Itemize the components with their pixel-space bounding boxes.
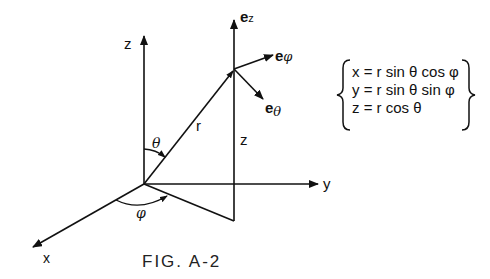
y-axis-label: y	[323, 176, 331, 191]
equations-block: x = r sin θ cos φ y = r sin θ sin φ z = …	[340, 58, 470, 130]
x-axis-label: x	[43, 251, 50, 265]
height-z-label: z	[240, 132, 248, 147]
ephi-label: eφ	[275, 48, 292, 63]
phi-label: φ	[136, 206, 146, 220]
figure-caption: FIG. A-2	[142, 252, 221, 272]
r-label: r	[196, 118, 201, 133]
etheta-label: eθ	[265, 100, 281, 115]
phi-arc	[116, 196, 167, 205]
equation-x: x = r sin θ cos φ	[352, 64, 459, 79]
projection-line	[144, 184, 234, 221]
x-axis	[33, 184, 144, 247]
equation-y: y = r sin θ sin φ	[352, 82, 455, 97]
ez-label: ez	[240, 9, 254, 24]
r-vector	[144, 71, 233, 184]
ephi-vector	[234, 55, 273, 69]
z-axis-label: z	[124, 36, 132, 51]
theta-label: θ	[152, 136, 160, 150]
etheta-vector	[234, 69, 263, 99]
equation-z: z = r cos θ	[352, 100, 422, 115]
